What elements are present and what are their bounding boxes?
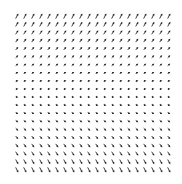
vector-arrow <box>16 128 19 130</box>
vector-arrow <box>144 136 147 139</box>
vector-arrow <box>112 30 115 34</box>
vector-arrow <box>32 112 35 114</box>
vector-arrow <box>136 80 139 82</box>
vector-arrow <box>48 112 51 114</box>
vector-arrow <box>168 128 171 130</box>
arrow-head <box>128 96 130 98</box>
vector-arrow <box>24 144 27 148</box>
vector-arrow <box>144 160 147 165</box>
arrow-head <box>104 96 106 98</box>
vector-arrow <box>128 72 131 74</box>
vector-arrow <box>32 72 35 74</box>
arrow-head <box>144 88 146 90</box>
vector-arrow <box>32 55 35 57</box>
vector-arrow <box>80 72 83 74</box>
vector-arrow <box>56 104 59 106</box>
vector-arrow <box>104 55 107 57</box>
quiver-plot <box>0 0 182 184</box>
vector-arrow <box>24 39 27 43</box>
vector-arrow <box>128 13 131 18</box>
vector-arrow <box>48 47 51 50</box>
vector-arrow <box>160 104 163 106</box>
vector-arrow <box>160 120 163 122</box>
vector-arrow <box>72 104 75 106</box>
vector-arrow <box>64 112 67 114</box>
vector-arrow <box>56 39 59 43</box>
vector-arrow <box>168 30 171 34</box>
vector-arrow <box>48 96 51 98</box>
vector-arrow <box>96 30 99 34</box>
arrow-head <box>48 104 50 106</box>
vector-arrow <box>136 144 139 148</box>
vector-arrow <box>64 80 67 82</box>
vector-arrow <box>104 13 107 18</box>
arrow-head <box>168 80 170 82</box>
vector-arrow <box>120 160 123 165</box>
vector-arrow <box>136 47 139 50</box>
vector-arrow <box>112 72 115 74</box>
arrow-head <box>48 88 50 90</box>
arrow-head <box>16 96 18 98</box>
vector-arrow <box>80 13 83 18</box>
vector-arrow <box>120 22 123 27</box>
vector-arrow <box>88 72 91 74</box>
vector-arrow <box>152 55 155 57</box>
vector-arrow <box>136 88 139 90</box>
vector-arrow <box>96 167 99 172</box>
vector-arrow <box>56 55 59 57</box>
vector-arrow <box>24 112 27 114</box>
vector-arrow <box>160 88 163 90</box>
vector-arrow <box>96 88 99 90</box>
vector-arrow <box>112 144 115 148</box>
vector-arrow <box>144 80 147 82</box>
vector-arrow <box>80 167 83 172</box>
vector-arrow <box>32 104 35 106</box>
vector-arrow <box>80 136 83 139</box>
vector-arrow <box>112 39 115 43</box>
vector-arrow <box>40 167 43 172</box>
vector-arrow <box>24 96 27 98</box>
vector-arrow <box>72 80 75 82</box>
vector-arrow <box>112 136 115 139</box>
vector-arrow <box>128 96 131 98</box>
vector-arrow <box>72 64 75 66</box>
vector-arrow <box>104 30 107 34</box>
vector-arrow <box>96 136 99 139</box>
vector-arrow <box>48 64 51 66</box>
vector-arrow <box>120 72 123 74</box>
vector-arrow <box>56 30 59 34</box>
arrow-head <box>120 88 122 90</box>
vector-arrow <box>168 47 171 50</box>
vector-arrow <box>104 47 107 50</box>
vector-arrow <box>104 64 107 66</box>
vector-arrow <box>144 104 147 106</box>
vector-arrow <box>40 30 43 34</box>
vector-arrow <box>96 144 99 148</box>
vector-arrow <box>64 136 67 139</box>
vector-arrow <box>56 167 59 172</box>
vector-arrow <box>88 47 91 50</box>
vector-arrow <box>96 13 99 18</box>
vector-arrow <box>32 80 35 82</box>
vector-arrow <box>120 64 123 66</box>
vector-arrow <box>72 13 75 18</box>
vector-arrow <box>136 64 139 66</box>
vector-arrow <box>56 22 59 27</box>
vector-arrow <box>88 104 91 106</box>
vector-arrow <box>40 152 43 156</box>
vector-arrow <box>40 128 43 130</box>
vector-arrow <box>88 22 91 27</box>
vector-arrow <box>168 80 171 82</box>
vector-arrow <box>112 64 115 66</box>
vector-arrow <box>32 128 35 130</box>
vector-arrow <box>56 112 59 114</box>
vector-arrow <box>72 88 75 90</box>
arrow-head <box>96 96 98 98</box>
vector-arrow <box>48 22 51 27</box>
arrow-head <box>16 104 18 106</box>
vector-arrow <box>32 160 35 165</box>
vector-arrow <box>72 39 75 43</box>
arrow-head <box>104 80 106 82</box>
vector-arrow <box>16 136 19 139</box>
vector-arrow <box>72 167 75 172</box>
